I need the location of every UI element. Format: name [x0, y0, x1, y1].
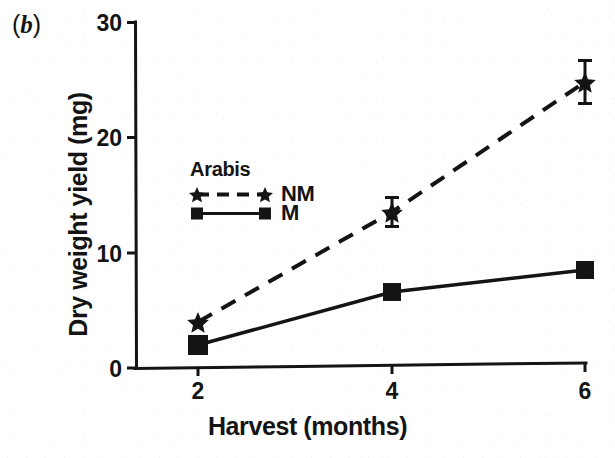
y-axis-spine [136, 22, 137, 368]
legend-sample-nm [188, 185, 274, 203]
legend-title: Arabis [188, 158, 338, 181]
legend: Arabis NM M [188, 158, 338, 222]
series-line-m [198, 270, 585, 345]
figure-panel-b: (b) Dry weight yield (mg) Harvest (month… [0, 0, 615, 458]
legend-label-m: M [281, 204, 299, 222]
plot-canvas [0, 0, 615, 458]
legend-row-nm[interactable]: NM [188, 184, 338, 203]
legend-sample-m [188, 204, 274, 222]
x-axis-spine [135, 363, 586, 369]
marker-m-2mo [188, 335, 208, 355]
marker-nm-2mo [187, 312, 209, 333]
marker-m-6mo [576, 261, 594, 279]
legend-row-m[interactable]: M [188, 203, 338, 222]
marker-m-4mo [383, 283, 401, 301]
